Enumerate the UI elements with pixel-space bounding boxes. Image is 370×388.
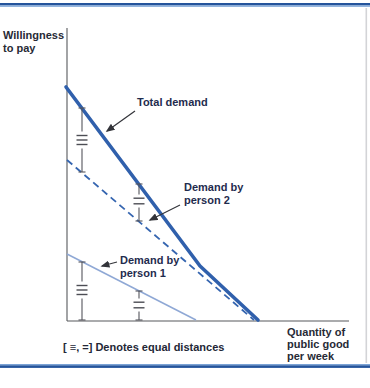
x-axis-label-line3: per week: [287, 350, 335, 362]
bottom-rule: [0, 365, 370, 368]
bottom-rule-highlight: [0, 364, 370, 365]
y-axis-label-line1: Willingness: [3, 29, 64, 41]
y-axis-label-line2: to pay: [3, 42, 36, 54]
public-good-demand-figure: Willingness to pay Quantity of public go…: [0, 0, 370, 388]
x-axis-label-line2: public good: [287, 338, 349, 350]
top-rule: [0, 3, 370, 5]
person1-demand-arrow-icon: [102, 262, 117, 266]
person2-demand-label-line2: person 2: [184, 194, 230, 206]
x-axis-label-line1: Quantity of: [287, 326, 345, 338]
person1-demand-label-line2: person 1: [120, 267, 166, 279]
equal-distances-caption: [ ≡, =] Denotes equal distances: [63, 341, 224, 353]
total-demand-label: Total demand: [137, 96, 208, 108]
person2-demand-label-line1: Demand by: [184, 181, 244, 193]
person1-demand-label-line1: Demand by: [120, 254, 180, 266]
page-edge-shadow: [366, 8, 368, 363]
top-rule-highlight: [0, 5, 370, 6]
total-demand-arrow-icon: [107, 111, 135, 131]
demand-chart: Willingness to pay Quantity of public go…: [0, 0, 370, 388]
